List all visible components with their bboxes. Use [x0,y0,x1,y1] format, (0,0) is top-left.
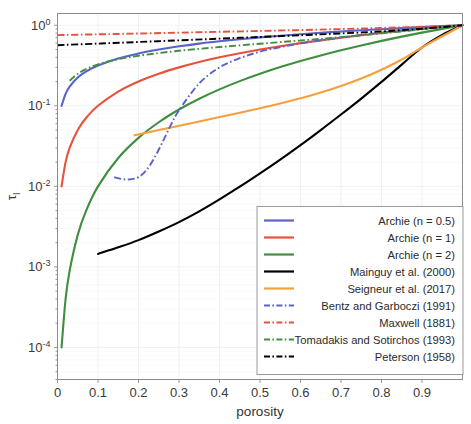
legend-label: Archie (n = 1) [388,232,456,244]
xtick-label: 0.7 [332,385,350,400]
xtick-label: 0.9 [413,385,431,400]
legend: Archie (n = 0.5)Archie (n = 1)Archie (n … [257,207,463,375]
xtick-label: 0.5 [251,385,269,400]
xtick-label: 0.8 [372,385,390,400]
legend-label: Archie (n = 2) [388,249,456,261]
ytick-label: 10-4 [28,339,50,355]
x-axis-title: porosity [236,404,284,419]
xtick-label: 0.3 [170,385,188,400]
legend-label: Mainguy et al. (2000) [350,266,455,278]
legend-label: Seigneur et al. (2017) [347,283,455,295]
ytick-label: 100 [31,17,50,33]
xtick-label: 0.6 [291,385,309,400]
ytick-label: 10-1 [28,97,50,113]
xtick-label: 0.4 [210,385,228,400]
xtick-label: 0.2 [129,385,147,400]
y-axis-title: τl [4,193,22,200]
figure-container: 00.10.20.30.40.50.60.70.80.910010-110-21… [0,0,471,424]
legend-label: Peterson (1958) [375,351,455,363]
legend-label: Bentz and Garboczi (1991) [321,300,455,312]
ytick-label: 10-3 [28,258,50,274]
ytick-label: 10-2 [28,178,50,194]
legend-label: Archie (n = 0.5) [378,215,455,227]
legend-label: Maxwell (1881) [379,317,455,329]
xtick-label: 0.1 [89,385,107,400]
xtick-label: 0 [54,385,61,400]
legend-label: Tomadakis and Sotirchos (1993) [295,334,456,346]
tortuosity-porosity-chart: 00.10.20.30.40.50.60.70.80.910010-110-21… [0,0,471,424]
